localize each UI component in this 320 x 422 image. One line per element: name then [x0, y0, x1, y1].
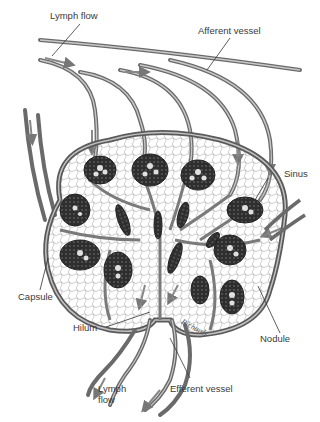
- label-capsule: Capsule: [18, 291, 53, 302]
- label-efferent-vessel: Efferent vessel: [170, 383, 233, 394]
- lymph-node-diagram: Lymph flow Afferent vessel Sinus Capsule…: [0, 0, 320, 422]
- label-lymph-flow-bottom-line1: Lymph: [98, 383, 126, 394]
- label-nodule: Nodule: [260, 333, 290, 344]
- label-sinus: Sinus: [284, 168, 308, 179]
- label-lymph-flow-bottom-line2: flow: [98, 394, 115, 405]
- label-afferent-vessel: Afferent vessel: [198, 25, 261, 36]
- label-lymph-flow-top: Lymph flow: [50, 10, 98, 21]
- lymph-node-illustration: [0, 0, 320, 422]
- label-hilum: Hilum: [73, 322, 97, 333]
